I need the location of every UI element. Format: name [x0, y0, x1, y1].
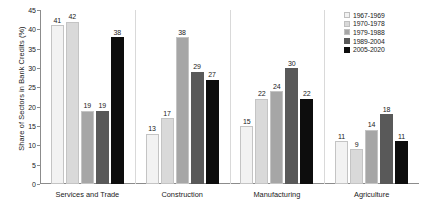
bar[interactable]: [365, 130, 378, 184]
legend-item[interactable]: 2005-2020: [344, 45, 422, 54]
bar[interactable]: [191, 72, 204, 184]
bar-value-label: 17: [163, 110, 171, 117]
legend-swatch-icon: [344, 21, 350, 27]
y-tick-mark: [37, 145, 40, 146]
category-label-services-and-trade: Services and Trade: [56, 190, 120, 199]
bar[interactable]: [66, 22, 79, 184]
bar-slot: 24: [270, 10, 283, 184]
bar[interactable]: [146, 134, 159, 184]
legend-item[interactable]: 1967-1969: [344, 11, 422, 20]
y-tick-mark: [37, 87, 40, 88]
bar[interactable]: [300, 99, 313, 184]
bar-value-label: 19: [83, 102, 91, 109]
bar[interactable]: [81, 111, 94, 184]
y-tick-mark: [37, 29, 40, 30]
bar[interactable]: [285, 68, 298, 184]
bar[interactable]: [176, 37, 189, 184]
y-tick-label: 40: [10, 26, 36, 33]
y-tick-label: 30: [10, 65, 36, 72]
bar[interactable]: [51, 25, 64, 184]
category-label-agriculture: Agriculture: [354, 190, 389, 199]
bar-value-label: 22: [303, 90, 311, 97]
bar-slot: 38: [176, 10, 189, 184]
bar-slot: 17: [161, 10, 174, 184]
bar-value-label: 9: [355, 141, 359, 148]
bar[interactable]: [161, 118, 174, 184]
bar-slot: 19: [81, 10, 94, 184]
legend-swatch-icon: [344, 47, 350, 53]
y-tick-mark: [37, 184, 40, 185]
y-tick-label: 25: [10, 84, 36, 91]
bar-chart: Share of Sectors in Bank Credits (%) 051…: [0, 0, 425, 217]
bar-slot: 22: [300, 10, 313, 184]
y-tick-mark: [37, 68, 40, 69]
legend-swatch-icon: [344, 29, 350, 35]
legend-item[interactable]: 1979-1988: [344, 28, 422, 37]
y-tick-mark: [37, 49, 40, 50]
y-tick-label: 45: [10, 7, 36, 14]
bar[interactable]: [96, 111, 109, 184]
y-tick-mark: [37, 126, 40, 127]
y-tick-label: 0: [10, 181, 36, 188]
y-tick-label: 5: [10, 161, 36, 168]
bar-value-label: 11: [338, 133, 345, 140]
panel-separator: [135, 10, 136, 184]
bar-value-label: 18: [383, 106, 391, 113]
bar-value-label: 27: [208, 71, 216, 78]
y-axis-line: [40, 10, 41, 184]
bar[interactable]: [240, 126, 253, 184]
bar-slot: 42: [66, 10, 79, 184]
bar-value-label: 38: [178, 29, 186, 36]
bar-value-label: 15: [243, 118, 251, 125]
bar-value-label: 41: [53, 17, 61, 24]
bar-slot: 29: [191, 10, 204, 184]
legend-label: 1979-1988: [353, 29, 385, 36]
bar-slot: 30: [285, 10, 298, 184]
bar[interactable]: [206, 80, 219, 184]
bar-group: 1522243022: [240, 10, 313, 184]
legend-item[interactable]: 1970-1978: [344, 20, 422, 29]
bar[interactable]: [111, 37, 124, 184]
y-tick-mark: [37, 107, 40, 108]
category-label-construction: Construction: [161, 190, 203, 199]
bar-value-label: 22: [258, 90, 266, 97]
bar[interactable]: [350, 149, 363, 184]
bar-slot: 22: [255, 10, 268, 184]
legend-label: 1967-1969: [353, 12, 385, 19]
bar[interactable]: [335, 141, 348, 184]
y-tick-label: 20: [10, 103, 36, 110]
legend-swatch-icon: [344, 38, 350, 44]
legend-label: 1970-1978: [353, 20, 385, 27]
bar-group: 4142191938: [51, 10, 124, 184]
bar[interactable]: [380, 114, 393, 184]
bar-value-label: 11: [398, 133, 405, 140]
legend-label: 1989-2004: [353, 38, 385, 45]
y-tick-mark: [37, 165, 40, 166]
bar-value-label: 19: [98, 102, 106, 109]
legend-item[interactable]: 1989-2004: [344, 37, 422, 46]
category-label-manufacturing: Manufacturing: [253, 190, 300, 199]
bar[interactable]: [255, 99, 268, 184]
bar-slot: 38: [111, 10, 124, 184]
bar[interactable]: [270, 91, 283, 184]
bar-slot: 41: [51, 10, 64, 184]
bar-slot: 19: [96, 10, 109, 184]
panel-separator: [324, 10, 325, 184]
bar-value-label: 13: [148, 125, 156, 132]
bar-value-label: 14: [368, 121, 376, 128]
panel-separator: [230, 10, 231, 184]
y-tick-label: 15: [10, 123, 36, 130]
bar[interactable]: [395, 141, 408, 184]
legend-label: 2005-2020: [353, 46, 385, 53]
bar-value-label: 38: [113, 29, 121, 36]
y-tick-mark: [37, 10, 40, 11]
y-tick-label: 35: [10, 45, 36, 52]
bar-group: 1317382927: [146, 10, 219, 184]
bar-value-label: 29: [193, 63, 201, 70]
bar-value-label: 42: [68, 13, 76, 20]
y-tick-label: 10: [10, 142, 36, 149]
legend: 1967-19691970-19781979-19881989-20042005…: [344, 11, 422, 54]
bar-slot: 13: [146, 10, 159, 184]
bar-value-label: 30: [288, 60, 296, 67]
legend-swatch-icon: [344, 12, 350, 18]
